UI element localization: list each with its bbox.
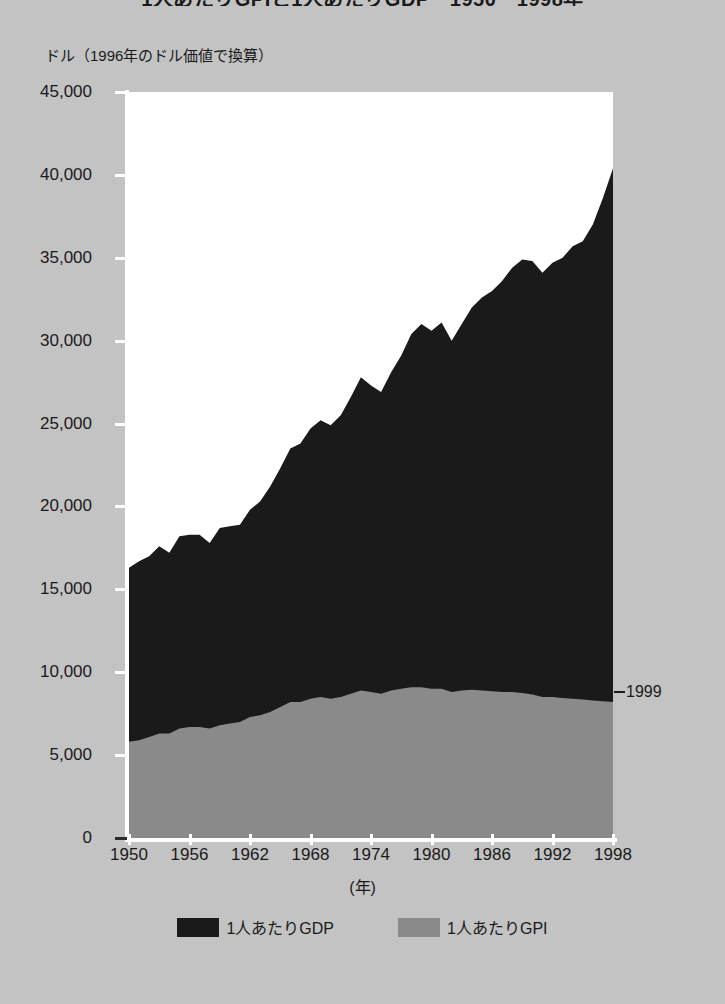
x-tick-mark [189, 834, 192, 845]
y-tick-mark [115, 174, 127, 177]
x-tick-label: 1968 [276, 846, 346, 863]
x-tick-label: 1980 [397, 846, 467, 863]
x-tick-label: 1992 [518, 846, 588, 863]
y-tick-label: 0 [0, 829, 92, 846]
x-tick-mark [552, 834, 555, 845]
y-tick-label: 5,000 [0, 746, 92, 763]
legend-swatch-gdp [177, 918, 219, 937]
x-tick-mark [431, 834, 434, 845]
x-tick-label: 1956 [155, 846, 225, 863]
plot-area [129, 92, 613, 838]
x-tick-mark [310, 834, 313, 845]
x-tick-label: 1962 [215, 846, 285, 863]
x-tick-label: 1998 [578, 846, 648, 863]
y-axis-line [125, 90, 129, 842]
legend-swatch-gpi [398, 918, 440, 937]
x-tick-mark [491, 834, 494, 845]
y-tick-label: 45,000 [0, 83, 92, 100]
y-tick-label: 20,000 [0, 497, 92, 514]
y-tick-mark [115, 588, 127, 591]
y-tick-label: 40,000 [0, 166, 92, 183]
annotation-dash-icon [614, 691, 625, 693]
y-tick-label: 15,000 [0, 580, 92, 597]
y-tick-label: 25,000 [0, 415, 92, 432]
legend-item-gdp: 1人あたりGDP [177, 915, 334, 939]
x-tick-mark [370, 834, 373, 845]
y-tick-mark [115, 423, 127, 426]
annotation-1999: 1999 [614, 683, 662, 701]
x-axis-caption: (年) [0, 874, 725, 898]
y-tick-label: 30,000 [0, 332, 92, 349]
y-tick-mark [115, 837, 127, 840]
x-tick-label: 1950 [94, 846, 164, 863]
y-tick-label: 35,000 [0, 249, 92, 266]
y-tick-mark [115, 754, 127, 757]
x-tick-label: 1974 [336, 846, 406, 863]
legend-item-gpi: 1人あたりGPI [398, 915, 547, 939]
annotation-1999-label: 1999 [626, 683, 662, 701]
y-tick-mark [115, 671, 127, 674]
x-tick-mark [128, 834, 131, 845]
y-tick-mark [115, 505, 127, 508]
chart-legend: 1人あたりGDP1人あたりGPI [0, 915, 725, 939]
chart-plot-wrapper: 45,00040,00035,00030,00025,00020,00015,0… [0, 0, 725, 1004]
x-tick-mark [612, 834, 615, 845]
x-tick-mark [249, 834, 252, 845]
legend-label-gpi: 1人あたりGPI [447, 915, 547, 939]
x-tick-label: 1986 [457, 846, 527, 863]
y-tick-mark [115, 340, 127, 343]
legend-label-gdp: 1人あたりGDP [226, 915, 334, 939]
y-tick-mark [115, 257, 127, 260]
y-tick-label: 10,000 [0, 663, 92, 680]
area-chart-svg [129, 92, 613, 838]
y-tick-mark [115, 91, 127, 94]
